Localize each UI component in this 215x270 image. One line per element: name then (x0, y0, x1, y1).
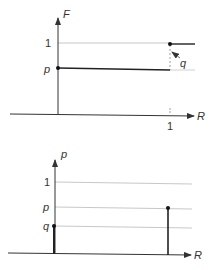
bottom-level-p-gridline (55, 207, 192, 209)
mass-point-p (166, 206, 170, 210)
top-y-tick-1: 1 (45, 37, 51, 49)
step-segment-p (58, 68, 170, 70)
bottom-level-q-gridline (55, 226, 192, 228)
top-x-axis-label: R (197, 110, 205, 122)
top-y-tick-p: p (43, 63, 50, 75)
top-y-axis-label: F (63, 8, 71, 20)
bottom-panel: p R 1 p q (8, 148, 202, 261)
bottom-level-1-gridline (55, 182, 192, 184)
step-point-1 (168, 42, 172, 46)
bottom-x-axis-label: R (194, 249, 202, 261)
bottom-y-tick-1: 1 (44, 176, 50, 188)
top-x-axis (10, 114, 194, 116)
top-panel: F R 1 p 1 q (10, 8, 205, 132)
bottom-x-axis (8, 253, 191, 255)
mass-point-q (52, 224, 56, 228)
bottom-y-axis-label: p (60, 148, 67, 160)
step-point-p (56, 66, 60, 70)
q-annotation-arrow (172, 52, 180, 58)
top-x-tick-1: 1 (167, 120, 173, 132)
figure: F R 1 p 1 q p R 1 p q (0, 0, 215, 270)
bottom-y-tick-q: q (43, 220, 50, 232)
bottom-y-tick-p: p (42, 201, 49, 213)
q-annotation-label: q (180, 57, 187, 69)
